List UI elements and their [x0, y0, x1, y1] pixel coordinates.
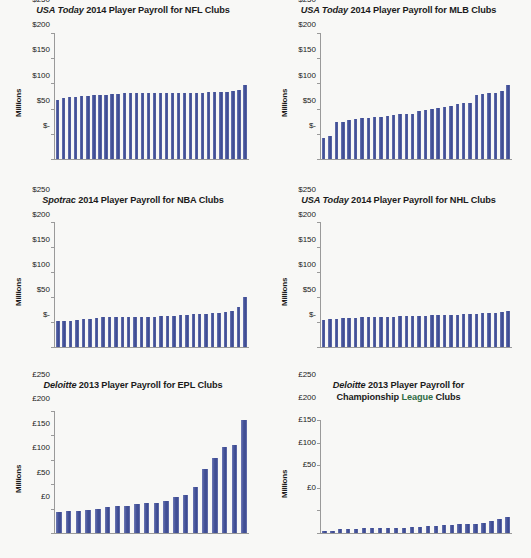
- bar: [76, 511, 82, 533]
- y-tick-label: $200: [298, 211, 316, 219]
- bar: [473, 524, 478, 533]
- y-axis-ticks-epl: £250£200£150£100£50£0: [20, 375, 54, 497]
- bar: [405, 316, 408, 347]
- y-tick-label: £50: [303, 461, 316, 469]
- bar: [173, 497, 179, 533]
- bar: [153, 93, 156, 159]
- bar: [424, 316, 427, 348]
- bar-series-epl: [56, 411, 247, 533]
- bar: [489, 521, 494, 533]
- bar: [506, 85, 509, 159]
- bar: [386, 116, 389, 159]
- bar: [243, 85, 246, 159]
- y-tick-label: $100: [298, 261, 316, 269]
- bar: [101, 317, 105, 347]
- bar: [62, 321, 66, 347]
- x-axis-line-mlb: [320, 159, 512, 160]
- bar: [506, 311, 509, 347]
- bar: [237, 90, 240, 159]
- bar: [153, 317, 157, 348]
- bar: [494, 313, 497, 348]
- bar: [177, 93, 180, 159]
- bar: [360, 118, 363, 159]
- bar: [475, 314, 478, 348]
- bar: [189, 93, 192, 159]
- bar: [456, 315, 459, 348]
- bar: [462, 103, 465, 159]
- bar: [402, 528, 407, 533]
- bar: [392, 317, 395, 348]
- bar: [346, 529, 351, 533]
- bar-series-mlb: [322, 33, 510, 159]
- y-axis-ticks-nba: $250$200$150$100$50$-: [20, 190, 54, 315]
- bar: [62, 98, 65, 159]
- bar: [243, 297, 247, 348]
- bar: [424, 110, 427, 159]
- bar: [418, 527, 423, 533]
- bar: [192, 314, 196, 347]
- y-tick-label: $250: [298, 186, 316, 194]
- bar: [360, 317, 363, 347]
- bar: [86, 96, 89, 160]
- bar: [212, 458, 218, 533]
- bar: [231, 91, 234, 159]
- y-axis-ticks-nhl: $250$200$150$100$50$-: [286, 190, 320, 315]
- y-tick-label: $200: [32, 211, 50, 219]
- bar: [82, 319, 86, 347]
- y-tick-label: $50: [303, 286, 316, 294]
- y-axis-ticks-mlb: $250$200$150$100$50$-: [286, 0, 320, 126]
- bar: [85, 510, 91, 533]
- y-tick-label: $-: [309, 122, 316, 130]
- y-tick-label: £0: [41, 493, 50, 501]
- bar: [430, 315, 433, 347]
- y-tick-label: £250: [32, 371, 50, 379]
- bar: [69, 321, 73, 348]
- bar: [335, 319, 338, 348]
- bar: [487, 313, 490, 347]
- bar: [202, 469, 208, 533]
- y-tick-label: $200: [298, 21, 316, 29]
- bar: [110, 94, 113, 159]
- bar: [398, 316, 401, 347]
- bar: [335, 122, 338, 159]
- bar: [98, 95, 101, 160]
- bar: [95, 318, 99, 348]
- bar: [159, 316, 163, 347]
- bar: [165, 93, 168, 159]
- bar: [217, 313, 221, 348]
- bar: [146, 317, 150, 348]
- y-tick-label: $150: [32, 236, 50, 244]
- bar: [456, 104, 459, 159]
- bar: [468, 314, 471, 347]
- y-tick-label: $-: [309, 311, 316, 319]
- bar: [185, 315, 189, 348]
- y-tick-label: £200: [32, 395, 50, 403]
- y-tick-label: $100: [298, 72, 316, 80]
- bar: [134, 504, 140, 533]
- y-axis-line-nfl: [54, 33, 55, 160]
- bar: [481, 523, 486, 533]
- bar: [115, 506, 121, 533]
- bar: [497, 519, 502, 533]
- bar-series-nhl: [322, 222, 510, 347]
- bar: [225, 92, 228, 159]
- bar: [172, 316, 176, 348]
- y-tick-label: $-: [43, 311, 50, 319]
- bar: [330, 531, 335, 533]
- bar: [434, 526, 439, 533]
- bar: [475, 95, 478, 159]
- bar: [140, 317, 144, 348]
- chart-panel-epl: Deloitte 2013 Player Payroll for EPL Clu…: [0, 375, 266, 558]
- bar: [410, 527, 415, 533]
- y-tick-label: $250: [298, 0, 316, 4]
- bar: [74, 97, 77, 159]
- bar: [133, 317, 137, 348]
- y-tick-label: £50: [37, 469, 50, 477]
- y-tick-label: $150: [298, 236, 316, 244]
- bar: [347, 318, 350, 348]
- bar: [398, 114, 401, 159]
- bar: [129, 93, 132, 159]
- y-tick-label: £100: [32, 444, 50, 452]
- y-tick-label: $250: [32, 186, 50, 194]
- bar: [88, 319, 92, 348]
